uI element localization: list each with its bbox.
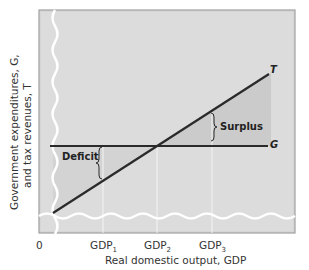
x-tick-gdp2: GDP2 — [144, 239, 171, 254]
x-tick-gdp3: GDP3 — [199, 239, 226, 254]
x-tick-gdp1: GDP1 — [90, 239, 117, 254]
g-curve-label: G — [270, 139, 278, 150]
t-curve-label: T — [270, 64, 277, 75]
gdp2-base: GDP — [144, 239, 167, 251]
gdp3-sub: 3 — [222, 246, 226, 254]
origin-label: 0 — [36, 239, 43, 251]
x-axis-label: Real domestic output, GDP — [105, 254, 246, 266]
surplus-label: Surplus — [220, 121, 263, 132]
budget-diagram — [0, 0, 309, 270]
gdp3-base: GDP — [199, 239, 222, 251]
deficit-label: Deficit — [62, 151, 99, 162]
gdp1-base: GDP — [90, 239, 113, 251]
gdp1-sub: 1 — [113, 246, 117, 254]
gdp2-sub: 2 — [167, 246, 171, 254]
